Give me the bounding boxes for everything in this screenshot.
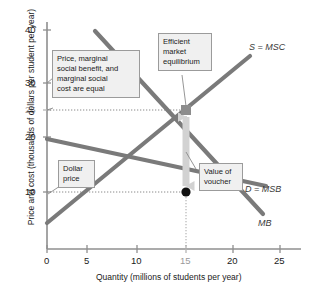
x-tick-label-15: 15	[180, 256, 191, 266]
dollar-price-marker	[181, 187, 190, 196]
curve-label-demand-msb: D = MSB	[245, 185, 281, 194]
x-tick-label-5: 5	[84, 256, 89, 266]
x-tick-label-0: 0	[44, 256, 49, 266]
equilibrium-marker	[181, 105, 191, 115]
education-voucher-chart: 40 30 25 20 10 0 5 10 15 20 25 Price and…	[0, 0, 312, 295]
x-tick-label-10: 10	[131, 256, 142, 266]
leader-efficient-equilibrium	[182, 75, 186, 106]
x-tick-label-20: 20	[227, 256, 238, 266]
callout-equality-note: Price, marginal social benefit, and marg…	[52, 50, 140, 98]
callout-value-of-voucher: Value of voucher	[199, 163, 243, 191]
x-axis-title: Quantity (millions of students per year)	[96, 273, 242, 282]
curve-label-supply-msc: S = MSC	[249, 43, 285, 52]
y-axis-title: Price and cost (thousands of dollars per…	[27, 45, 36, 225]
x-tick-label-25: 25	[274, 256, 285, 266]
curve-label-marginal-benefit: MB	[258, 219, 272, 228]
callout-dollar-price: Dollar price	[58, 160, 95, 188]
callout-efficient-equilibrium: Efficient market equilibrium	[158, 33, 212, 71]
